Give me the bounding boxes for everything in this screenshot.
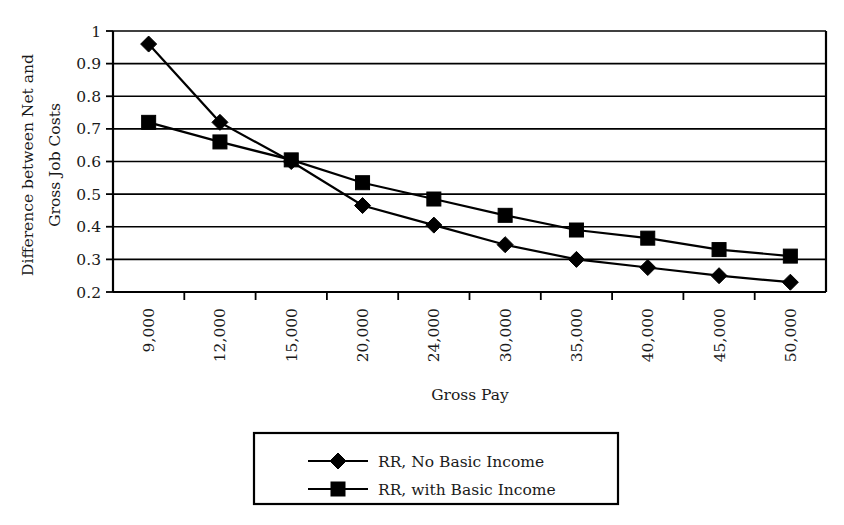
series-2 <box>142 115 798 263</box>
x-axis-tick-labels: 9,00012,00015,00020,00024,00030,00035,00… <box>140 308 800 362</box>
legend-entry-2[interactable]: RR, with Basic Income <box>308 481 556 499</box>
x-tick-label: 45,000 <box>711 308 729 362</box>
data-point-marker <box>497 237 513 253</box>
x-tick-label: 30,000 <box>497 308 515 362</box>
data-point-marker <box>142 115 156 129</box>
data-point-marker <box>498 208 512 222</box>
series-1 <box>141 36 799 290</box>
data-point-marker <box>640 260 656 276</box>
x-axis-tick-marks <box>184 292 754 300</box>
y-tick-label: 0.2 <box>76 284 101 302</box>
x-tick-label: 15,000 <box>283 308 301 362</box>
data-point-marker <box>213 135 227 149</box>
data-point-marker <box>355 198 371 214</box>
data-point-marker <box>426 217 442 233</box>
data-series-group <box>141 36 799 290</box>
data-point-marker <box>712 243 726 257</box>
legend-label: RR, with Basic Income <box>378 481 556 499</box>
y-axis-tick-labels: 0.20.30.40.50.60.70.80.91 <box>76 23 101 302</box>
line-chart: 0.20.30.40.50.60.70.80.91 9,00012,00015,… <box>0 0 844 525</box>
data-point-marker <box>284 153 298 167</box>
x-tick-label: 24,000 <box>425 308 443 362</box>
data-point-marker <box>568 251 584 267</box>
x-tick-label: 9,000 <box>140 308 158 352</box>
y-tick-label: 0.8 <box>76 88 101 106</box>
data-point-marker <box>356 176 370 190</box>
y-tick-label: 0.4 <box>76 218 101 236</box>
chart-container: 0.20.30.40.50.60.70.80.91 9,00012,00015,… <box>0 0 844 525</box>
x-tick-label: 35,000 <box>568 308 586 362</box>
data-point-marker <box>782 274 798 290</box>
data-point-marker <box>427 192 441 206</box>
series-line <box>149 122 791 256</box>
y-tick-label: 0.9 <box>76 55 101 73</box>
y-tick-label: 0.5 <box>76 186 101 204</box>
data-point-marker <box>569 223 583 237</box>
data-point-marker <box>711 268 727 284</box>
legend-square-marker-icon <box>331 482 345 496</box>
x-tick-label: 20,000 <box>354 308 372 362</box>
data-point-marker <box>783 249 797 263</box>
legend-label: RR, No Basic Income <box>378 453 544 471</box>
y-tick-label: 0.3 <box>76 251 101 269</box>
y-tick-label: 1 <box>91 23 101 41</box>
x-tick-label: 40,000 <box>639 308 657 362</box>
y-axis-title-line-1: Difference between Net and <box>19 54 37 276</box>
legend: RR, No Basic IncomeRR, with Basic Income <box>254 433 618 504</box>
y-tick-label: 0.6 <box>76 153 101 171</box>
y-tick-label: 0.7 <box>76 120 101 138</box>
x-axis-title: Gross Pay <box>431 386 509 404</box>
x-tick-label: 12,000 <box>211 308 229 362</box>
data-point-marker <box>641 231 655 245</box>
x-tick-label: 50,000 <box>782 308 800 362</box>
y-axis-title-line-2: Gross Job Costs <box>46 103 64 227</box>
